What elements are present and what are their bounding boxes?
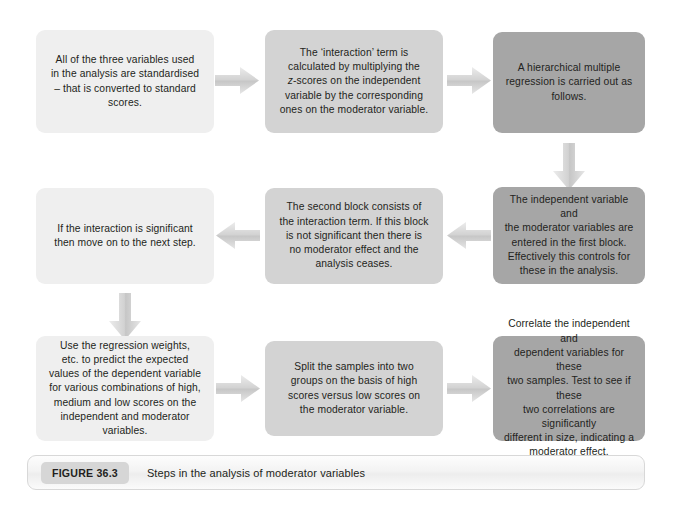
flow-step-5: The second block consists of the interac… xyxy=(265,188,443,284)
flow-step-9: Correlate the independent and dependent … xyxy=(493,336,645,441)
flow-step-5-text: The second block consists of the interac… xyxy=(275,200,433,271)
arrow-right-step2-step3 xyxy=(447,67,491,94)
figure-caption-text: Steps in the analysis of moderator varia… xyxy=(147,467,365,479)
figure-container: All of the three variables used in the a… xyxy=(0,0,683,506)
flow-step-9-text: Correlate the independent and dependent … xyxy=(503,317,635,459)
arrow-right-step7-step8 xyxy=(216,375,260,402)
flow-step-3-text: A hierarchical multiple regression is ca… xyxy=(503,61,635,104)
figure-caption-bar: FIGURE 36.3 Steps in the analysis of mod… xyxy=(27,455,645,490)
arrow-left-step5-step6 xyxy=(216,222,260,249)
flow-step-4-text: The independent variable and the moderat… xyxy=(503,193,635,278)
arrow-down-step6-step7 xyxy=(109,293,141,340)
flow-step-8: Split the samples into two groups on the… xyxy=(265,341,443,436)
flow-step-7: Use the regression weights, etc. to pred… xyxy=(36,336,214,441)
flow-step-1-text: All of the three variables used in the a… xyxy=(46,53,204,110)
flow-step-3: A hierarchical multiple regression is ca… xyxy=(493,32,645,133)
arrow-down-step3-step4 xyxy=(553,143,585,190)
flow-step-8-text: Split the samples into two groups on the… xyxy=(275,360,433,417)
flow-step-6-text: If the interaction is significant then m… xyxy=(46,222,204,250)
flow-step-4: The independent variable and the moderat… xyxy=(493,187,645,284)
figure-number-label: FIGURE 36.3 xyxy=(41,462,129,484)
flow-step-7-text: Use the regression weights, etc. to pred… xyxy=(46,339,204,438)
arrow-right-step1-step2 xyxy=(215,67,259,94)
flow-step-2: The ‘interaction’ term is calculated by … xyxy=(265,30,443,133)
flow-step-2-text: The ‘interaction’ term is calculated by … xyxy=(275,46,433,117)
arrow-right-step8-step9 xyxy=(447,375,491,402)
flow-step-6: If the interaction is significant then m… xyxy=(36,188,214,284)
flow-step-1: All of the three variables used in the a… xyxy=(36,30,214,133)
arrow-left-step4-step5 xyxy=(447,222,491,249)
